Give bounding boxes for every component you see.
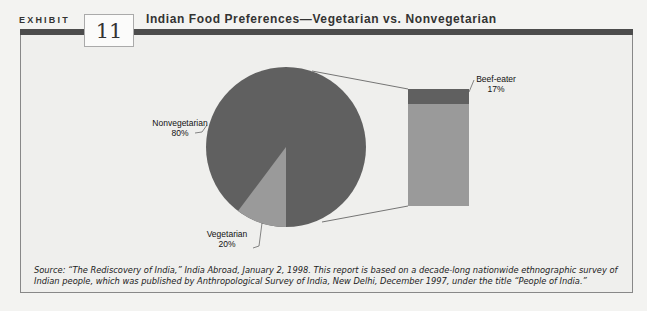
label-vegetarian: Vegetarian 20% bbox=[202, 229, 252, 249]
pie bbox=[206, 67, 366, 227]
label-nonvegetarian-pct: 80% bbox=[150, 128, 210, 138]
bar-beef-eater bbox=[408, 89, 469, 104]
leader-veg bbox=[253, 223, 262, 248]
label-nonvegetarian: Nonvegetarian 80% bbox=[150, 118, 210, 138]
label-nonvegetarian-name: Nonvegetarian bbox=[150, 118, 210, 128]
label-beef-eater-name: Beef-eater bbox=[471, 74, 521, 84]
label-vegetarian-name: Vegetarian bbox=[202, 229, 252, 239]
label-beef-eater-pct: 17% bbox=[471, 84, 521, 94]
label-beef-eater: Beef-eater 17% bbox=[471, 74, 521, 94]
exhibit-number: 11 bbox=[84, 14, 134, 47]
bar-rest bbox=[408, 104, 469, 206]
label-vegetarian-pct: 20% bbox=[202, 239, 252, 249]
source-note: Source: “The Rediscovery of India,” Indi… bbox=[34, 265, 629, 287]
